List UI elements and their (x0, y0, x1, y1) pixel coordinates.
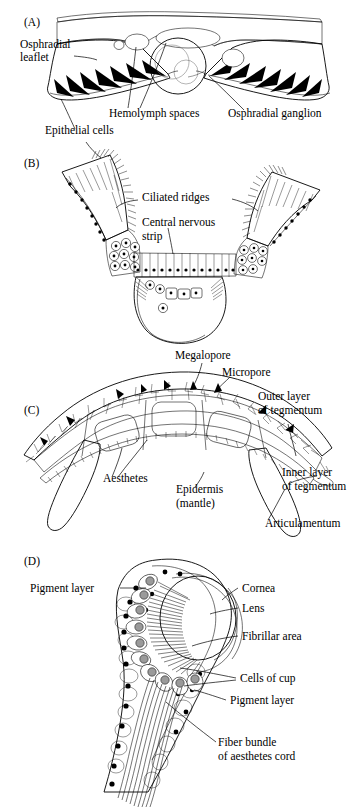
label-osphradial-leaflet-line2: leaflet (20, 51, 50, 63)
label-inner-layer-line2: of tegmentum (282, 480, 346, 493)
panel-d-letter: (D) (24, 555, 40, 568)
label-osphradial-leaflet-line1: Osphradial (20, 38, 70, 51)
label-ciliated-ridges: Ciliated ridges (142, 191, 210, 204)
panel-a-letter: (A) (24, 16, 40, 29)
label-central-nervous-strip-line1: Central nervous (142, 216, 216, 228)
panel-b-letter: (B) (24, 157, 40, 170)
label-hemolymph-spaces: Hemolymph spaces (109, 107, 200, 120)
label-central-nervous-strip-line2: strip (142, 230, 163, 243)
label-fiber-bundle-line1: Fiber bundle (218, 736, 276, 748)
label-pigment-layer-lower: Pigment layer (230, 694, 294, 707)
panel-c-letter: (C) (24, 404, 40, 417)
figure-svg: (A) (0, 0, 359, 808)
label-outer-layer-line2: of tegmentum (258, 404, 322, 417)
figure-plate: (A) (0, 0, 359, 808)
label-articulamentum: Articulamentum (265, 517, 340, 529)
label-inner-layer-line1: Inner layer (282, 466, 332, 479)
label-cornea: Cornea (242, 582, 275, 594)
label-outer-layer-line1: Outer layer (258, 390, 310, 403)
label-cells-of-cup: Cells of cup (240, 672, 296, 685)
label-osphradial-ganglion: Osphradial ganglion (228, 107, 322, 120)
label-epithelial-cells: Epithelial cells (45, 124, 114, 137)
label-epidermis-line1: Epidermis (176, 483, 224, 496)
label-megalopore: Megalopore (175, 349, 231, 362)
label-aesthetes: Aesthetes (103, 472, 148, 484)
label-micropore: Micropore (222, 366, 271, 379)
label-fibrillar-area: Fibrillar area (242, 630, 302, 642)
label-fiber-bundle-line2: of aesthetes cord (218, 750, 296, 762)
label-lens: Lens (242, 602, 265, 614)
label-pigment-layer-upper: Pigment layer (30, 582, 94, 595)
label-epidermis-line2: (mantle) (176, 497, 215, 510)
